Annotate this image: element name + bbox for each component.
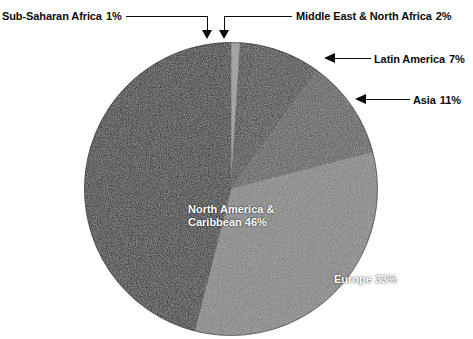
slice-label-north-america-line1: North America & bbox=[188, 203, 274, 216]
slice-label-north-america-line2: Caribbean 46% bbox=[188, 216, 274, 229]
callout-pct-middle-east-north-africa: 2% bbox=[432, 10, 452, 22]
callout-pct-sub-saharan-africa: 1% bbox=[102, 10, 122, 22]
callout-label-sub-saharan-africa: Sub-Saharan Africa1% bbox=[2, 10, 122, 22]
leader-line-sub-saharan-africa-vertical bbox=[207, 16, 208, 31]
callout-name-latin-america: Latin America bbox=[374, 53, 445, 65]
arrow-icon-latin-america bbox=[324, 53, 335, 63]
pie-svg bbox=[84, 42, 378, 336]
leader-line-middle-east-north-africa-vertical bbox=[224, 16, 225, 31]
callout-name-middle-east-north-africa: Middle East & North Africa bbox=[296, 10, 432, 22]
callout-label-latin-america: Latin America7% bbox=[374, 53, 465, 65]
callout-label-middle-east-north-africa: Middle East & North Africa2% bbox=[296, 10, 451, 22]
callout-pct-latin-america: 7% bbox=[445, 53, 465, 65]
arrow-icon-sub-saharan-africa bbox=[202, 30, 212, 39]
leader-line-latin-america bbox=[335, 58, 371, 59]
callout-name-sub-saharan-africa: Sub-Saharan Africa bbox=[2, 10, 102, 22]
slice-label-north-america: North America & Caribbean 46% bbox=[188, 203, 274, 229]
callout-label-asia: Asia11% bbox=[413, 94, 461, 106]
callout-pct-asia: 11% bbox=[436, 94, 461, 106]
leader-line-sub-saharan-africa-horizontal bbox=[126, 16, 208, 17]
slice-label-europe: Europe 33% bbox=[334, 273, 397, 286]
pie-chart-figure: North America & Caribbean 46% Europe 33%… bbox=[0, 0, 473, 339]
arrow-icon-asia bbox=[355, 94, 366, 104]
callout-name-asia: Asia bbox=[413, 94, 436, 106]
pie-chart: North America & Caribbean 46% Europe 33% bbox=[84, 42, 378, 336]
leader-line-asia bbox=[366, 99, 410, 100]
leader-line-middle-east-north-africa-horizontal bbox=[224, 16, 292, 17]
arrow-icon-middle-east-north-africa bbox=[219, 30, 229, 39]
